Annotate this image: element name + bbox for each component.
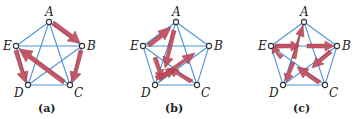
node-label-a: A xyxy=(171,5,181,19)
caption-a: (a) xyxy=(38,102,56,115)
node-label-c: C xyxy=(329,86,338,100)
arrows-c xyxy=(272,25,334,84)
panel-c: A B C D E (c) xyxy=(257,5,351,115)
caption-c: (c) xyxy=(293,102,310,115)
caption-b: (b) xyxy=(165,102,183,115)
node-label-b: B xyxy=(213,39,223,53)
node-label-c: C xyxy=(201,86,210,100)
node-label-a: A xyxy=(44,5,54,19)
panel-a: A B C D E (a) xyxy=(2,5,96,115)
arrows-b xyxy=(147,27,195,83)
node-label-e: E xyxy=(257,39,267,53)
node-label-d: D xyxy=(13,86,24,100)
node-label-e: E xyxy=(2,39,12,53)
node-label-d: D xyxy=(140,86,151,100)
node-label-b: B xyxy=(86,39,96,53)
node-label-b: B xyxy=(341,39,351,53)
node-label-a: A xyxy=(299,5,309,19)
node-label-e: E xyxy=(129,39,139,53)
panel-b: A B C D E (b) xyxy=(129,5,223,115)
node-label-c: C xyxy=(74,86,83,100)
graph-figure: A B C D E (a) A B C D E (b) xyxy=(0,0,353,119)
node-label-d: D xyxy=(268,86,279,100)
